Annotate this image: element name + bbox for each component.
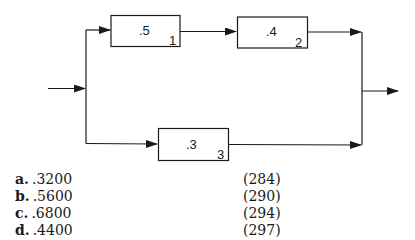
choice-letter: a. <box>15 171 29 187</box>
choice-letter: b. <box>15 188 30 204</box>
arrow-box-3-to-merge <box>228 145 361 146</box>
component-3-number: 3 <box>217 147 224 162</box>
page-reference: (294) <box>243 205 281 221</box>
arrow-to-box-3 <box>86 144 157 145</box>
component-2-reliability: .4 <box>266 24 277 39</box>
component-1-reliability: .5 <box>139 23 150 38</box>
component-2-number: 2 <box>295 35 302 50</box>
page-reference: (297) <box>243 222 281 238</box>
answer-choice-d: d..4400 (297) <box>15 222 73 239</box>
answer-choice-c: c..6800 (294) <box>15 205 72 222</box>
choice-letter: d. <box>15 222 30 238</box>
reliability-block-diagram: .5 1 .4 2 .3 3 <box>0 0 415 170</box>
answer-choice-b: b..5600 (290) <box>15 188 73 205</box>
page-reference: (290) <box>243 188 281 204</box>
choice-value: .5600 <box>33 188 73 204</box>
choice-letter: c. <box>15 205 28 221</box>
component-1-number: 1 <box>169 33 176 48</box>
choice-value: .3200 <box>32 171 72 187</box>
choice-value: .6800 <box>31 205 71 221</box>
answer-choice-a: a..3200 (284) <box>15 171 72 188</box>
component-3-reliability: .3 <box>186 137 197 152</box>
page-reference: (284) <box>243 171 281 187</box>
choice-value: .4400 <box>33 222 73 238</box>
